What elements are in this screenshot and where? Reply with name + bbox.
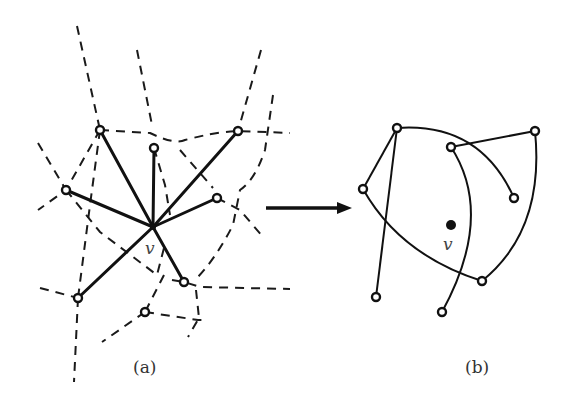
graph-node	[234, 127, 242, 135]
center-vertex-v	[150, 224, 156, 230]
star-edge	[66, 190, 153, 227]
dashed-boundary	[172, 280, 290, 289]
dashed-boundary	[180, 150, 213, 188]
graph-node	[180, 278, 188, 286]
star-edge	[153, 198, 217, 227]
panel-b-center-label: v	[443, 234, 453, 254]
dashed-boundary	[100, 130, 290, 141]
graph-node	[372, 293, 380, 301]
dashed-boundary	[238, 50, 261, 131]
star-edge	[78, 227, 153, 298]
curve-edge	[363, 128, 397, 189]
transform-arrow	[266, 202, 352, 214]
panel-a-star-edges	[66, 130, 238, 298]
figure-canvas: v (a) v (b)	[0, 0, 570, 410]
dashed-boundary	[154, 148, 170, 215]
curve-edge	[442, 147, 471, 312]
dashed-boundary	[137, 50, 152, 125]
dashed-boundary	[217, 198, 263, 237]
dashed-boundary	[102, 312, 145, 342]
curve-edge	[363, 189, 482, 281]
graph-node	[150, 144, 158, 152]
graph-node	[531, 127, 539, 135]
center-vertex-v	[446, 220, 456, 230]
star-edge	[100, 130, 153, 227]
graph-node	[62, 186, 70, 194]
dashed-boundary	[195, 95, 273, 280]
arrow-head-icon	[337, 202, 352, 214]
dashed-boundary	[74, 298, 78, 382]
graph-node	[447, 143, 455, 151]
dashed-boundary	[145, 275, 164, 312]
graph-node	[393, 124, 401, 132]
graph-node	[74, 294, 82, 302]
panel-b-caption: (b)	[465, 357, 489, 377]
panel-a-caption: (a)	[133, 357, 156, 377]
graph-node	[359, 185, 367, 193]
graph-node	[141, 308, 149, 316]
graph-node	[96, 126, 104, 134]
panel-a-dashed-boundaries	[38, 26, 290, 382]
dashed-boundary	[77, 26, 100, 130]
dashed-boundary	[78, 130, 100, 298]
graph-node	[478, 277, 486, 285]
dashed-boundary	[40, 288, 78, 298]
graph-node	[213, 194, 221, 202]
dashed-boundary	[38, 143, 66, 190]
graph-node	[438, 308, 446, 316]
star-edge	[153, 148, 154, 227]
dashed-boundary	[188, 290, 199, 337]
star-edge	[153, 131, 238, 227]
curve-edge	[482, 131, 536, 281]
graph-node	[510, 194, 518, 202]
panel-a-center-label: v	[145, 238, 155, 258]
panel-b-curves	[363, 128, 536, 312]
star-edge	[153, 227, 184, 282]
